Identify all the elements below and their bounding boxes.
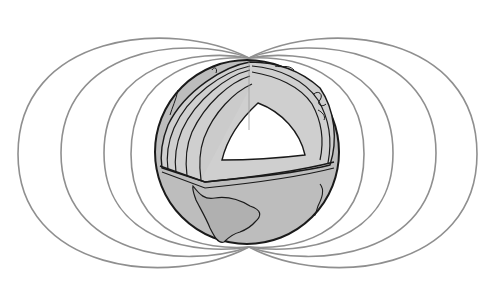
diagram-canvas (0, 0, 495, 300)
globe (155, 60, 339, 244)
magnetic-field-diagram: Earth magnetic field with cutaway globe (0, 0, 495, 300)
